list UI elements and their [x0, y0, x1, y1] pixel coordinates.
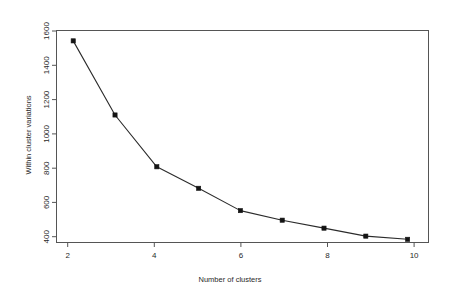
y-axis-title: Within cluster variations — [24, 95, 33, 174]
x-tick-label-8: 8 — [325, 251, 330, 260]
data-point-k6 — [238, 209, 242, 213]
data-point-k4 — [155, 165, 159, 169]
data-point-markers — [71, 39, 410, 242]
y-axis-tick-labels: 1600 1400 1200 1000 800 600 400 — [42, 22, 51, 244]
y-tick-label-600: 600 — [42, 195, 51, 209]
x-tick-label-2: 2 — [65, 251, 70, 260]
elbow-plot-figure: 1600 1400 1200 1000 800 600 400 2 4 6 8 … — [0, 0, 450, 291]
y-tick-label-800: 800 — [42, 161, 51, 175]
y-tick-label-400: 400 — [42, 229, 51, 243]
data-point-k5 — [197, 186, 201, 190]
x-tick-label-6: 6 — [239, 251, 244, 260]
data-point-k3 — [113, 113, 117, 117]
y-tick-label-1600: 1600 — [42, 22, 51, 40]
x-tick-label-10: 10 — [410, 251, 419, 260]
x-axis-tick-labels: 2 4 6 8 10 — [65, 251, 419, 260]
x-tick-label-4: 4 — [152, 251, 157, 260]
x-axis-title: Number of clusters — [199, 275, 262, 284]
y-tick-label-1000: 1000 — [42, 124, 51, 142]
y-tick-label-1400: 1400 — [42, 56, 51, 74]
data-point-k7 — [280, 218, 284, 222]
y-tick-label-1200: 1200 — [42, 90, 51, 108]
x-axis-ticks — [68, 243, 414, 248]
y-axis-ticks — [52, 31, 57, 237]
data-point-k9 — [364, 234, 368, 238]
plot-canvas: 1600 1400 1200 1000 800 600 400 2 4 6 8 … — [0, 0, 450, 291]
data-point-k2 — [71, 39, 75, 43]
data-point-k8 — [322, 226, 326, 230]
data-point-k10 — [406, 237, 410, 241]
